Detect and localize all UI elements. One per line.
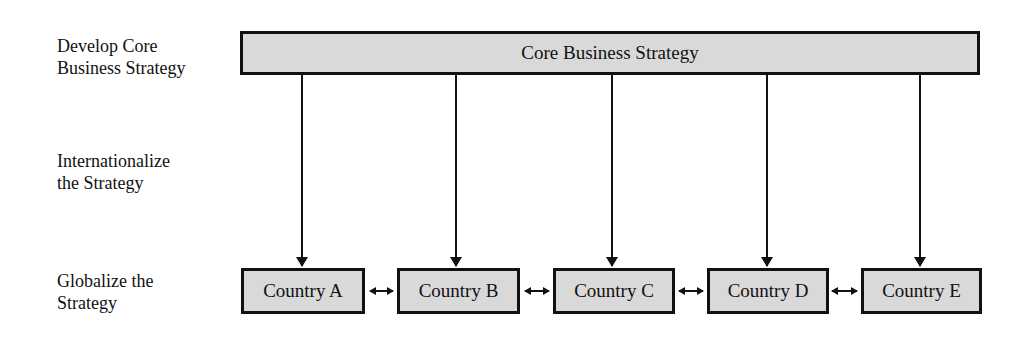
country-label: Country E	[882, 280, 961, 302]
country-box-c: Country C	[553, 268, 675, 314]
country-label: Country A	[263, 280, 343, 302]
country-box-e: Country E	[861, 268, 982, 314]
country-box-d: Country D	[707, 268, 829, 314]
country-box-b: Country B	[397, 268, 520, 314]
country-box-a: Country A	[241, 268, 365, 314]
country-label: Country B	[419, 280, 499, 302]
country-label: Country D	[728, 280, 809, 302]
country-label: Country C	[574, 280, 654, 302]
